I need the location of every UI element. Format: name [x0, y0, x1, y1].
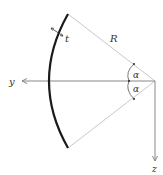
y-axis-label: y	[8, 76, 15, 87]
angle-label-lower: α	[133, 84, 139, 94]
angle-label-upper: α	[133, 70, 139, 80]
angle-dot-middle	[128, 80, 130, 82]
thickness-label: t	[65, 33, 70, 44]
radius-line-lower	[68, 81, 155, 148]
z-axis-label: z	[151, 164, 157, 174]
angle-dot-lower	[133, 98, 135, 100]
angle-dot-upper	[133, 63, 135, 65]
radius-label: R	[109, 33, 118, 44]
radius-line-upper	[68, 14, 155, 81]
curved-shell-diagram: t R α α y z	[0, 0, 163, 175]
